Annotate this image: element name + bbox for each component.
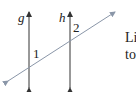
angle-label-1: 1	[33, 47, 40, 60]
angle-label-2: 2	[73, 21, 80, 34]
label-g: g	[18, 11, 25, 24]
label-h: h	[59, 11, 66, 24]
side-text-line-2: to	[125, 48, 136, 62]
side-text-line-1: Li	[125, 31, 136, 45]
parallel-lines-diagram: g h 1 2	[0, 0, 136, 92]
